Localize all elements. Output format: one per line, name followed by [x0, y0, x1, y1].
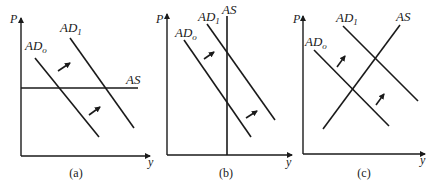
ad0-label: ADo	[304, 34, 327, 51]
panel-caption: (c)	[357, 166, 370, 180]
panel-caption: (a)	[69, 166, 82, 180]
shift-arrow-icon	[58, 63, 70, 71]
shift-arrow-icon	[376, 94, 384, 105]
ad0-label: ADo	[24, 38, 47, 55]
as-label: AS	[125, 72, 141, 87]
ad0-curve	[184, 40, 251, 137]
y-axis-label: P	[155, 12, 164, 26]
y-axis-label: P	[9, 12, 18, 26]
shift-arrow-icon	[89, 107, 100, 115]
shift-arrow-icon	[246, 111, 257, 118]
ad1-label: AD1	[59, 20, 82, 37]
as-label: AS	[221, 2, 237, 17]
ad1-curve	[70, 38, 134, 128]
y-axis-label: P	[292, 12, 301, 26]
x-axis-label: y	[285, 155, 292, 169]
shift-arrow-icon	[337, 56, 345, 67]
x-axis-label: y	[419, 153, 426, 167]
x-axis-label-prev: y	[147, 155, 154, 169]
shift-arrow-icon	[204, 52, 214, 59]
panel-b: P y y AS ADo AD1 (b)	[147, 2, 292, 180]
as-label: AS	[395, 9, 411, 24]
ad-as-diagram: P AS ADo AD1 (a) P y y AS ADo AD1 (b) P …	[0, 0, 438, 184]
ad0-curve	[35, 58, 99, 137]
panel-c: P y AS ADo AD1 (c)	[292, 9, 426, 180]
as-curve	[323, 25, 400, 129]
ad1-label: AD1	[335, 10, 358, 27]
panel-caption: (b)	[219, 166, 233, 180]
ad1-label: AD1	[197, 9, 220, 26]
ad0-label: ADo	[174, 25, 197, 42]
panel-a: P AS ADo AD1 (a)	[9, 12, 150, 180]
ad1-curve	[207, 24, 275, 120]
